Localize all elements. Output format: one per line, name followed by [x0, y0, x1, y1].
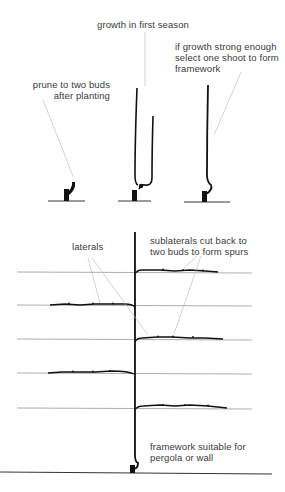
label-line: after planting: [31, 90, 110, 101]
stage-3-selected-shoot: [184, 72, 241, 202]
label-select-one-shoot: if growth strong enough select one shoot…: [175, 41, 279, 74]
leader-stage-3: [214, 72, 241, 135]
label-prune-two-buds: prune to two buds after planting: [31, 79, 110, 101]
label-line: sublaterals cut back to: [150, 235, 248, 246]
leader-sublaterals-b: [174, 256, 201, 334]
label-laterals: laterals: [72, 241, 103, 252]
trunk-base: [130, 465, 135, 473]
label-line: framework: [175, 63, 279, 74]
label-line: framework suitable for: [150, 441, 246, 452]
label-growth-first-season: growth in first season: [97, 19, 189, 30]
framework-diagram: [0, 232, 272, 474]
shoot-short: [139, 116, 153, 189]
shoot-tall: [135, 88, 138, 185]
lateral-1-right: [135, 270, 218, 274]
leader-laterals-b: [92, 258, 148, 335]
stub-trunk: [64, 189, 69, 201]
label-line: growth in first season: [97, 19, 189, 30]
main-trunk: [134, 232, 138, 469]
label-line: if growth strong enough: [175, 41, 279, 52]
leader-sublaterals-a: [184, 256, 197, 268]
label-line: select one shoot to form: [175, 52, 279, 63]
label-line: pergola or wall: [150, 452, 246, 463]
label-framework-pergola: framework suitable for pergola or wall: [150, 441, 246, 463]
lateral-5-right: [135, 405, 227, 410]
stage-2-trunk: [132, 190, 137, 201]
leader-stage-1: [43, 100, 73, 176]
stage-1-pruned-cane: [43, 100, 85, 201]
leader-laterals-a: [88, 258, 100, 303]
label-line: laterals: [72, 241, 103, 252]
label-sublaterals: sublaterals cut back to two buds to form…: [150, 235, 248, 257]
label-line: two buds to form spurs: [150, 246, 248, 257]
bud-node: [139, 184, 143, 188]
stage-2-first-season: [118, 32, 153, 201]
bud-spur: [68, 182, 75, 195]
ground-line-framework: [0, 472, 272, 474]
selected-shoot: [206, 85, 211, 194]
label-line: prune to two buds: [31, 79, 110, 90]
stage-3-trunk: [202, 191, 207, 202]
